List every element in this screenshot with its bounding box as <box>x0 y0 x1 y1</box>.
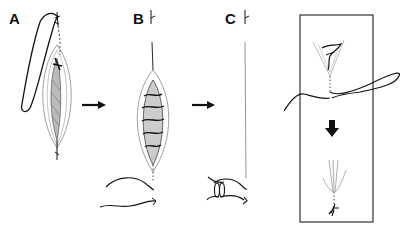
panel-b-drawing <box>100 10 169 207</box>
panel-c-drawing <box>207 10 249 204</box>
suture-figure: A B C <box>0 0 417 233</box>
panel-a-drawing <box>22 12 72 160</box>
arrow-right-icon <box>82 101 106 109</box>
arrow-down-icon <box>325 120 339 137</box>
arrow-right-icon <box>192 101 215 109</box>
illustration <box>0 0 417 233</box>
inset-bottom-drawing <box>323 160 346 216</box>
inset-top-drawing <box>284 40 399 111</box>
